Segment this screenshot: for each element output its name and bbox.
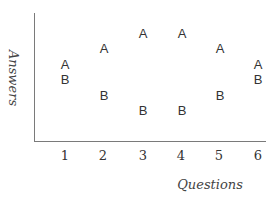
x-axis-label: Questions: [177, 177, 243, 192]
x-tick-1: 1: [61, 148, 69, 163]
point-a-q6: A: [254, 58, 263, 71]
point-a-q1: A: [61, 58, 70, 71]
x-axis-line: [34, 141, 266, 142]
point-b-q6: B: [254, 73, 263, 86]
scatter-chart: Answers Questions 1 2 3 4 5 6 A A A A A …: [0, 0, 270, 198]
point-a-q5: A: [216, 42, 225, 55]
y-axis-line: [34, 13, 35, 142]
x-tick-2: 2: [99, 148, 107, 163]
x-tick-4: 4: [177, 148, 185, 163]
point-a-q4: A: [178, 27, 187, 40]
point-b-q4: B: [178, 104, 187, 117]
x-tick-6: 6: [254, 148, 262, 163]
point-b-q1: B: [61, 73, 70, 86]
x-tick-3: 3: [139, 148, 147, 163]
point-b-q2: B: [100, 89, 109, 102]
point-a-q3: A: [139, 27, 148, 40]
point-b-q3: B: [139, 104, 148, 117]
point-a-q2: A: [100, 42, 109, 55]
y-axis-label: Answers: [6, 50, 21, 106]
point-b-q5: B: [216, 89, 225, 102]
x-tick-5: 5: [215, 148, 223, 163]
